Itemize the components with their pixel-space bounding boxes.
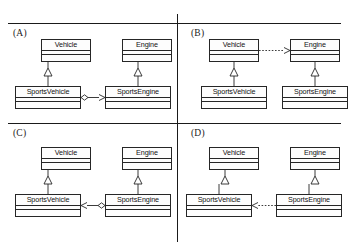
class-name: SportsVehicle [202,87,266,98]
class-operations-compartment [277,210,341,216]
panel-d-class-engine[interactable]: Engine [290,147,340,170]
class-name: SportsEngine [283,87,347,98]
panel-d-class-sportsengine[interactable]: SportsEngine [276,194,342,217]
dependency-arrowhead-d [252,203,258,209]
panel-b-class-engine[interactable]: Engine [290,39,340,62]
generalization-triangle-engine [311,176,319,184]
aggregation-diamond-c [98,203,105,208]
panel-c-connectors [0,123,177,251]
panel-a-class-sportsengine[interactable]: SportsEngine [105,86,171,109]
aggregation-arrowhead-c [81,203,87,209]
generalization-triangle-engine [134,176,142,184]
class-operations-compartment [291,163,339,169]
class-name: Vehicle [210,40,258,51]
panel-c-class-sportsengine[interactable]: SportsEngine [105,194,171,217]
panel-c-class-engine[interactable]: Engine [122,147,172,170]
panel-a-class-engine[interactable]: Engine [122,39,172,62]
panel-a-class-vehicle[interactable]: Vehicle [41,39,91,62]
class-operations-compartment [187,210,251,216]
panel-d-connectors [177,123,349,251]
class-name: Engine [291,40,339,51]
class-operations-compartment [42,55,90,61]
class-name: SportsEngine [106,87,170,98]
generalization-triangle-vehicle [230,68,238,76]
aggregation-diamond-a [81,95,88,100]
panel-a-label: (A) [13,28,27,38]
panel-b-label: (B) [191,28,204,38]
uml-options-figure: (A) Vehicle Engine SportsVehicle SportsE… [0,0,349,251]
class-operations-compartment [123,55,171,61]
class-name: Engine [123,148,171,159]
panel-b-class-vehicle[interactable]: Vehicle [209,39,259,62]
panel-b-class-sportsengine[interactable]: SportsEngine [282,86,348,109]
class-name: SportsVehicle [16,195,80,206]
panel-a: (A) Vehicle Engine SportsVehicle SportsE… [0,23,177,123]
panel-d: (D) Vehicle Engine SportsVehicle SportsE… [177,123,349,251]
class-name: SportsVehicle [16,87,80,98]
class-operations-compartment [16,210,80,216]
class-operations-compartment [123,163,171,169]
class-operations-compartment [291,55,339,61]
class-name: SportsEngine [106,195,170,206]
panel-c-class-sportsvehicle[interactable]: SportsVehicle [15,194,81,217]
generalization-triangle-engine [134,68,142,76]
class-operations-compartment [106,102,170,108]
panel-a-class-sportsvehicle[interactable]: SportsVehicle [15,86,81,109]
class-operations-compartment [16,102,80,108]
panel-c: (C) Vehicle Engine SportsVehicle SportsE… [0,123,177,251]
class-name: SportsEngine [277,195,341,206]
class-name: Engine [291,148,339,159]
class-name: SportsVehicle [187,195,251,206]
panel-d-label: (D) [191,128,205,138]
class-operations-compartment [210,55,258,61]
generalization-triangle-vehicle [44,68,52,76]
class-name: Vehicle [42,148,90,159]
class-operations-compartment [106,210,170,216]
class-operations-compartment [283,102,347,108]
panel-b: (B) Vehicle Engine SportsVehicle SportsE… [177,23,349,123]
class-operations-compartment [210,163,258,169]
class-operations-compartment [202,102,266,108]
panel-c-label: (C) [13,128,26,138]
panel-d-class-vehicle[interactable]: Vehicle [209,147,259,170]
class-name: Vehicle [42,40,90,51]
generalization-triangle-engine [311,68,319,76]
class-name: Engine [123,40,171,51]
generalization-triangle-vehicle [221,176,229,184]
panel-b-class-sportsvehicle[interactable]: SportsVehicle [201,86,267,109]
class-name: Vehicle [210,148,258,159]
panel-d-class-sportsvehicle[interactable]: SportsVehicle [186,194,252,217]
panel-c-class-vehicle[interactable]: Vehicle [41,147,91,170]
class-operations-compartment [42,163,90,169]
generalization-triangle-vehicle [44,176,52,184]
